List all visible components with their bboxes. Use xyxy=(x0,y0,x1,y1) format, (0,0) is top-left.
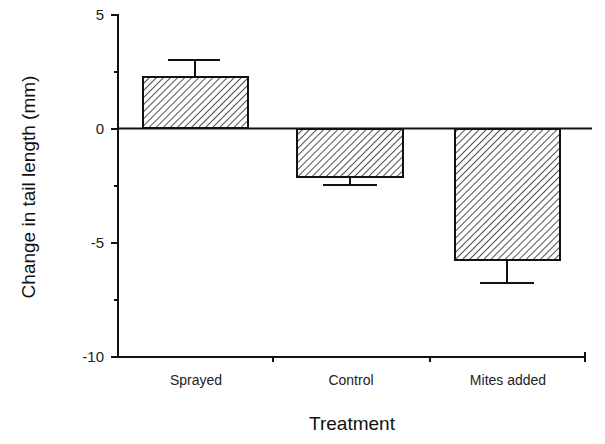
bar-control xyxy=(297,129,403,185)
x-category-control: Control xyxy=(328,372,373,388)
x-axis-title: Treatment xyxy=(309,413,396,434)
y-ticks xyxy=(111,15,118,357)
x-category-mites-added: Mites added xyxy=(470,372,546,388)
y-tick-label-minus10: -10 xyxy=(82,348,104,365)
bar-chart: 5 0 -5 -10 Sprayed Control Mites added T… xyxy=(0,0,605,444)
bar-mites-added xyxy=(455,129,560,283)
x-category-sprayed: Sprayed xyxy=(170,372,222,388)
y-axis-title: Change in tail length (mm) xyxy=(18,76,39,299)
bar-sprayed xyxy=(143,60,248,128)
y-tick-label-0: 0 xyxy=(96,120,104,137)
y-tick-label-minus5: -5 xyxy=(91,234,104,251)
y-tick-label-5: 5 xyxy=(96,6,104,23)
